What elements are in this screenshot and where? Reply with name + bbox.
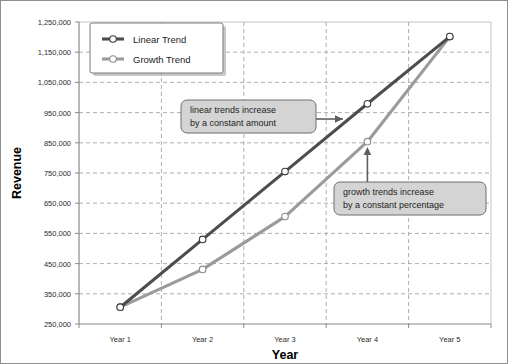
data-point [199, 266, 206, 273]
data-point [117, 304, 124, 311]
data-point [199, 236, 206, 243]
y-tick-label: 350,000 [44, 290, 71, 299]
x-axis-tick-labels: Year 1 Year 2 Year 3 Year 4 Year 5 [109, 335, 460, 344]
legend-label-linear-trend: Linear Trend [133, 34, 186, 45]
annotation-growth-note-arrow [364, 147, 372, 182]
legend-label-growth-trend: Growth Trend [133, 54, 191, 65]
y-tick-label: 450,000 [44, 260, 71, 269]
y-tick-label: 1,050,000 [38, 78, 71, 87]
y-tick-label: 250,000 [44, 320, 71, 329]
annotation-linear-note[interactable]: linear trends increase by a constant amo… [181, 100, 343, 133]
annotation-linear-note-line1: linear trends increase [190, 105, 276, 115]
line-chart: 1,250,000 1,150,000 1,050,000 950,000 85… [1, 1, 508, 364]
x-tick-label-year-4: Year 4 [357, 335, 378, 344]
y-tick-label: 550,000 [44, 229, 71, 238]
legend-box [90, 23, 223, 73]
data-point [364, 138, 371, 145]
y-axis-tick-labels: 1,250,000 1,150,000 1,050,000 950,000 85… [38, 18, 71, 329]
data-point [282, 213, 289, 220]
data-point [447, 33, 454, 40]
y-tick-label: 1,250,000 [38, 18, 71, 27]
data-point [282, 168, 289, 175]
y-tick-label: 750,000 [44, 169, 71, 178]
x-tick-label-year-3: Year 3 [274, 335, 295, 344]
annotation-growth-note-line1: growth trends increase [343, 187, 434, 197]
chart-legend[interactable]: Linear Trend Growth Trend [90, 23, 226, 76]
x-tick-label-year-1: Year 1 [109, 335, 130, 344]
annotation-growth-note-line2: by a constant percentage [343, 200, 444, 210]
annotation-growth-note[interactable]: growth trends increase by a constant per… [334, 147, 486, 215]
annotation-linear-note-arrow [316, 115, 343, 123]
legend-marker-linear-trend [110, 36, 117, 43]
y-tick-label: 1,150,000 [38, 48, 71, 57]
legend-marker-growth-trend [110, 56, 117, 63]
x-tick-label-year-5: Year 5 [439, 335, 460, 344]
y-axis-title: Revenue [10, 147, 24, 199]
x-axis-title: Year [272, 348, 299, 362]
y-tick-label: 950,000 [44, 109, 71, 118]
chart-frame: 1,250,000 1,150,000 1,050,000 950,000 85… [0, 0, 508, 364]
data-point [364, 101, 371, 108]
y-tick-label: 850,000 [44, 139, 71, 148]
y-tick-label: 650,000 [44, 199, 71, 208]
x-tick-label-year-2: Year 2 [192, 335, 213, 344]
annotation-linear-note-line2: by a constant amount [190, 118, 277, 128]
